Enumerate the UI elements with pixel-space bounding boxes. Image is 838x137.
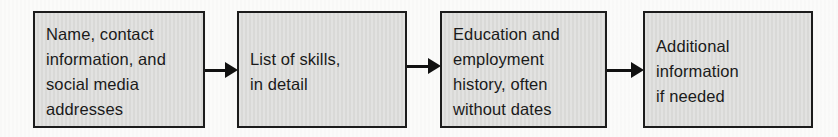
arrow-shaft: [607, 69, 631, 72]
flow-box-education-history: Education and employment history, often …: [440, 11, 607, 128]
arrow-right-icon: [407, 58, 441, 74]
flow-box-contact-info-label: Name, contact information, and social me…: [35, 16, 174, 124]
flow-box-contact-info: Name, contact information, and social me…: [33, 11, 205, 128]
arrow-shaft: [407, 65, 428, 68]
resume-sections-flow-diagram: Name, contact information, and social me…: [0, 0, 838, 137]
arrow-shaft: [205, 69, 225, 72]
flow-box-skills-label: List of skills, in detail: [239, 41, 348, 99]
arrow-right-icon: [607, 62, 644, 78]
flow-box-additional-info-label: Additional information if needed: [645, 28, 747, 111]
flow-box-education-history-label: Education and employment history, often …: [442, 16, 568, 124]
flow-box-additional-info: Additional information if needed: [643, 11, 813, 128]
arrow-right-icon: [205, 62, 238, 78]
flow-box-skills: List of skills, in detail: [237, 11, 407, 128]
